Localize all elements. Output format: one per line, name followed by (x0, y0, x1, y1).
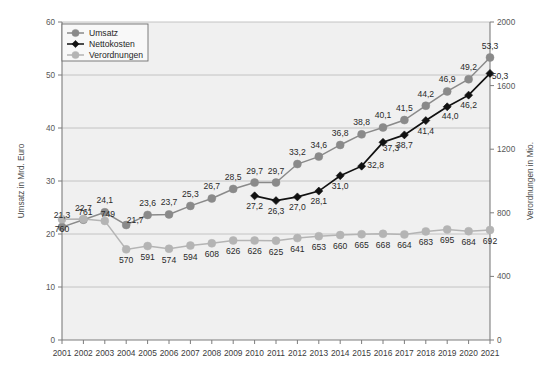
data-point-marker (293, 234, 301, 242)
x-tick-label: 2012 (288, 348, 307, 358)
data-point-label: 608 (205, 249, 220, 259)
y-tick-label: 30 (46, 177, 56, 186)
data-point-label: 36,8 (332, 128, 349, 138)
data-point-marker (358, 230, 366, 238)
x-tick-label: 2014 (331, 348, 350, 358)
legend-label: Nettokosten (89, 39, 135, 49)
data-point-label: 683 (419, 237, 434, 247)
x-tick-label: 2020 (459, 348, 478, 358)
x-tick-label: 2001 (53, 348, 72, 358)
data-point-marker (251, 179, 259, 187)
data-point-marker (315, 232, 323, 240)
data-point-label: 50,3 (492, 71, 509, 81)
data-point-marker (208, 194, 216, 202)
data-point-label: 29,7 (268, 166, 285, 176)
x-tick-label: 2013 (309, 348, 328, 358)
data-point-marker (122, 245, 130, 253)
x-tick-label: 2005 (138, 348, 157, 358)
legend-label: Verordnungen (89, 50, 143, 60)
legend-item-umsatz[interactable]: Umsatz (67, 28, 118, 38)
y-tick-label: 50 (46, 71, 56, 80)
data-point-label: 684 (461, 237, 476, 247)
y2-tick-label: 0 (497, 336, 502, 345)
data-point-marker (358, 130, 366, 138)
data-point-label: 29,7 (246, 166, 263, 176)
data-point-label: 46,9 (439, 74, 456, 84)
y-tick-label: 40 (46, 124, 56, 133)
data-point-marker (272, 237, 280, 245)
x-tick-label: 2017 (395, 348, 414, 358)
data-point-label: 24,1 (96, 195, 113, 205)
data-point-label: 760 (55, 224, 70, 234)
line-chart: 0102030405060 0400800120016002000 200120… (0, 0, 547, 369)
data-point-label: 28,5 (225, 172, 242, 182)
data-point-marker (229, 185, 237, 193)
data-point-label: 26,7 (203, 181, 220, 191)
x-tick-label: 2015 (352, 348, 371, 358)
data-point-label: 53,3 (482, 41, 499, 51)
legend-marker (72, 51, 79, 58)
x-tick-label: 2009 (224, 348, 243, 358)
data-point-label: 664 (397, 240, 412, 250)
y2-axis-ticks: 0400800120016002000 (490, 18, 516, 345)
data-point-marker (465, 227, 473, 235)
data-point-marker (165, 210, 173, 218)
x-tick-label: 2011 (267, 348, 285, 358)
data-point-marker (165, 245, 173, 253)
data-point-label: 27,2 (246, 201, 263, 211)
legend-label: Umsatz (89, 28, 118, 38)
data-point-marker (229, 236, 237, 244)
chart-container: 0102030405060 0400800120016002000 200120… (0, 0, 547, 369)
x-tick-label: 2002 (74, 348, 93, 358)
data-point-marker (400, 230, 408, 238)
y2-tick-label: 800 (497, 209, 511, 218)
data-point-label: 692 (483, 236, 498, 246)
data-point-marker (251, 236, 259, 244)
y2-tick-label: 1600 (497, 82, 516, 91)
x-tick-label: 2007 (181, 348, 200, 358)
data-point-marker (486, 226, 494, 234)
data-point-label: 31,0 (332, 181, 349, 191)
y2-tick-label: 1200 (497, 145, 516, 154)
data-point-label: 38,7 (396, 140, 413, 150)
y2-axis-title: Verordnungen in Mio. (526, 142, 535, 220)
x-tick-label: 2019 (438, 348, 457, 358)
data-point-label: 626 (226, 246, 241, 256)
data-point-label: 594 (183, 252, 198, 262)
data-point-label: 46,2 (460, 100, 477, 110)
y-tick-label: 0 (50, 336, 55, 345)
data-point-label: 23,7 (161, 197, 178, 207)
data-point-label: 695 (440, 235, 455, 245)
y2-tick-label: 400 (497, 272, 511, 281)
y-axis-title: Umsatz in Mrd. Euro (17, 143, 26, 218)
data-point-marker (465, 75, 473, 83)
data-point-label: 41,5 (396, 103, 413, 113)
data-point-label: 591 (140, 252, 155, 262)
x-tick-label: 2008 (202, 348, 221, 358)
data-point-marker (144, 211, 152, 219)
x-axis-ticks: 2001200220032004200520062007200820092010… (53, 340, 500, 358)
data-point-marker (443, 87, 451, 95)
data-point-marker (336, 141, 344, 149)
data-point-marker (144, 242, 152, 250)
data-point-label: 40,1 (375, 110, 392, 120)
data-point-marker (315, 153, 323, 161)
data-point-label: 21,3 (54, 210, 71, 220)
data-point-label: 38,8 (353, 117, 370, 127)
legend-marker (72, 29, 79, 36)
data-point-label: 665 (354, 240, 369, 250)
y-tick-label: 60 (46, 18, 56, 27)
data-point-label: 44,0 (442, 111, 459, 121)
data-point-marker (186, 242, 194, 250)
data-point-marker (293, 160, 301, 168)
y-axis-ticks: 0102030405060 (46, 18, 62, 345)
data-point-marker (272, 179, 280, 187)
chart-legend[interactable]: UmsatzNettokostenVerordnungen (62, 24, 148, 61)
x-tick-label: 2016 (374, 348, 393, 358)
data-point-label: 625 (269, 247, 284, 257)
x-tick-label: 2018 (416, 348, 435, 358)
data-point-label: 653 (312, 242, 327, 252)
data-point-marker (379, 123, 387, 131)
data-point-label: 32,8 (367, 160, 384, 170)
x-tick-label: 2003 (95, 348, 114, 358)
